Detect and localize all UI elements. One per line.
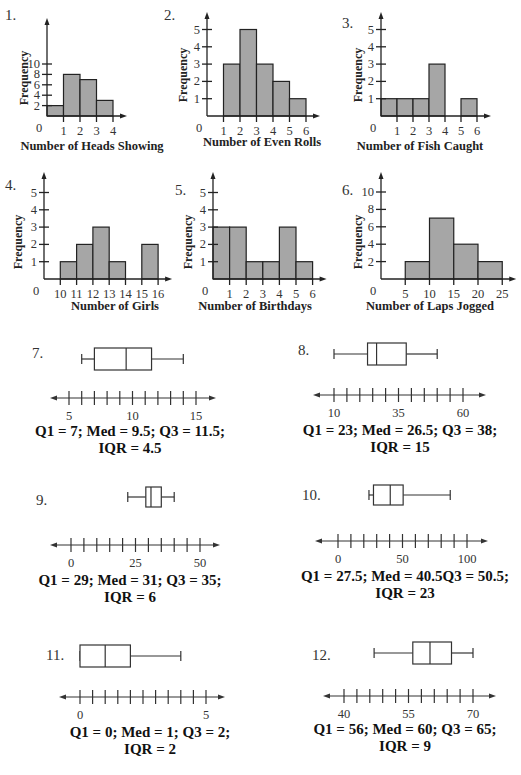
histogram-bar [97, 100, 114, 116]
boxplot-7: 7.51015Q1 = 7; Med = 9.5; Q3 = 11.5;IQR … [32, 345, 225, 456]
axis-tick-label: 50 [396, 552, 409, 566]
y-axis-label: Frequency [176, 48, 190, 102]
histogram-bar [263, 262, 280, 279]
y-tick-label: 2 [368, 255, 374, 269]
x-tick-label: 4 [110, 124, 117, 138]
histogram-bar [273, 81, 290, 116]
y-axis-label: Frequency [351, 48, 365, 102]
y-axis-arrow-icon [45, 18, 50, 25]
histogram-3: 3.123450123456Number of Fish CaughtFrequ… [342, 12, 491, 153]
histogram-bar [405, 262, 429, 279]
axis-tick-label: 5 [203, 708, 209, 722]
x-axis-label: Number of Girls [71, 299, 159, 313]
axis-tick-label: 55 [402, 707, 415, 721]
axis-tick-label: 10 [126, 409, 139, 423]
y-tick-label: 5 [200, 186, 206, 200]
y-tick-label: 4 [368, 237, 375, 251]
quartile-stats: Q1 = 7; Med = 9.5; Q3 = 11.5; [35, 423, 225, 439]
histogram-bar [80, 80, 97, 116]
histogram-bar [430, 218, 454, 279]
axis-tick-label: 15 [190, 409, 203, 423]
histogram-6: 6.2468100510152025Number of Laps JoggedF… [342, 172, 516, 313]
axis-tick-label: 25 [129, 556, 142, 570]
x-axis-label: Number of Fish Caught [357, 139, 484, 153]
boxplot-9: 9.02550Q1 = 29; Med = 31; Q3 = 35;IQR = … [36, 487, 222, 605]
axis-tick-label: 0 [68, 556, 74, 570]
y-axis-arrow-icon [379, 172, 384, 179]
problem-number: 6. [342, 182, 353, 198]
y-tick-label: 4 [194, 40, 201, 54]
quartile-stats: Q1 = 29; Med = 31; Q3 = 35; [38, 572, 221, 588]
right-arrow-icon [481, 539, 488, 544]
y-tick-label: 6 [368, 220, 374, 234]
y-axis-label: Frequency [11, 215, 25, 269]
y-tick-label: 2 [194, 74, 200, 88]
x-axis-arrow-icon [509, 277, 516, 282]
problem-number: 2. [164, 7, 175, 23]
axis-tick-label: 50 [194, 556, 207, 570]
boxplot-8: 8.103560Q1 = 23; Med = 26.5; Q3 = 38;IQR… [298, 342, 497, 455]
histogram-bar [246, 262, 263, 279]
origin-label: 0 [33, 284, 39, 298]
problem-number: 4. [5, 177, 16, 193]
problem-number: 5. [175, 182, 186, 198]
boxplot-10: 10.050100Q1 = 27.5; Med = 40.5Q3 = 50.5;… [301, 485, 509, 601]
histogram-bar [257, 64, 274, 116]
origin-label: 0 [370, 284, 376, 298]
problem-number: 7. [32, 345, 43, 361]
x-tick-label: 4 [442, 124, 449, 138]
y-tick-label: 5 [194, 23, 200, 37]
origin-label: 0 [370, 121, 376, 135]
axis-tick-label: 0 [77, 708, 83, 722]
iqr-stat: IQR = 23 [375, 585, 434, 601]
x-tick-label: 6 [474, 124, 480, 138]
iqr-stat: IQR = 4.5 [98, 440, 161, 456]
x-axis-arrow-icon [320, 277, 327, 282]
histogram-bar [296, 262, 313, 279]
histogram-bar [290, 99, 307, 116]
x-axis-label: Number of Heads Showing [20, 139, 164, 153]
problem-number: 9. [36, 492, 47, 508]
right-arrow-icon [209, 396, 216, 401]
right-arrow-icon [213, 543, 220, 548]
y-axis-label: Frequency [181, 215, 195, 269]
left-arrow-icon [313, 393, 320, 398]
y-tick-label: 4 [31, 203, 38, 217]
histogram-bar [60, 262, 76, 279]
histogram-bar [413, 99, 429, 116]
y-tick-label: 10 [362, 185, 375, 199]
left-arrow-icon [59, 695, 66, 700]
axis-tick-label: 40 [338, 707, 351, 721]
problem-number: 3. [342, 15, 353, 31]
iqr-box [368, 343, 407, 365]
problem-number: 11. [46, 647, 64, 663]
y-tick-label: 2 [200, 237, 206, 251]
histogram-bar [93, 227, 109, 279]
quartile-stats: Q1 = 0; Med = 1; Q3 = 2; [70, 724, 231, 740]
histogram-4: 4.12345010111213141516Number of GirlsFre… [5, 172, 172, 313]
histogram-5: 5.123450123456Number of BirthdaysFrequen… [175, 172, 327, 313]
x-axis-arrow-icon [165, 277, 172, 282]
x-tick-label: 25 [496, 287, 509, 301]
y-tick-label: 3 [200, 220, 206, 234]
left-arrow-icon [315, 539, 322, 544]
histogram-bar [454, 244, 478, 279]
histogram-bar [279, 227, 296, 279]
quartile-stats: Q1 = 56; Med = 60; Q3 = 65; [313, 721, 496, 737]
y-axis-arrow-icon [379, 12, 384, 19]
histogram-bar [478, 262, 502, 279]
y-tick-label: 3 [368, 57, 374, 71]
right-arrow-icon [218, 695, 225, 700]
origin-label: 0 [202, 284, 208, 298]
problem-number: 10. [302, 487, 321, 503]
y-axis-label: Frequency [351, 215, 365, 269]
boxplot-12: 12.405570Q1 = 56; Med = 60; Q3 = 65;IQR … [312, 642, 497, 754]
y-axis-arrow-icon [211, 172, 216, 179]
y-tick-label: 5 [368, 23, 374, 37]
histogram-bar [461, 99, 477, 116]
histogram-bar [47, 106, 64, 116]
x-axis-label: Number of Birthdays [198, 299, 312, 313]
histogram-bar [381, 99, 397, 116]
y-axis-label: Frequency [17, 51, 31, 105]
y-tick-label: 5 [31, 186, 37, 200]
